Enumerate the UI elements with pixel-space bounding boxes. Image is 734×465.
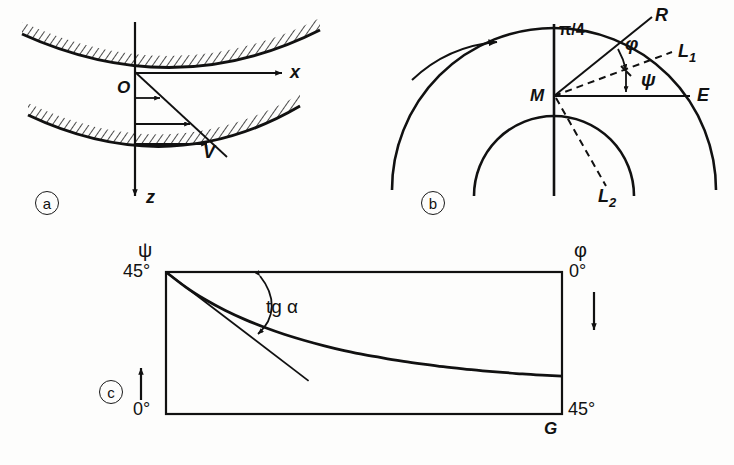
angle-psi-label: ψ xyxy=(641,70,656,89)
upper-wall-hatching xyxy=(22,18,320,68)
psi-axis-symbol: ψ xyxy=(138,240,152,260)
ray-label-R: R xyxy=(655,6,668,24)
tangent-line xyxy=(166,272,309,381)
origin-label-O: O xyxy=(117,79,130,96)
phi-axis-symbol: φ xyxy=(574,240,587,260)
psi-curve xyxy=(166,272,562,376)
psi-axis-bottom-tick: 0° xyxy=(133,400,150,418)
plot-box xyxy=(166,272,562,414)
velocity-label-V: V xyxy=(203,143,215,161)
panel-tag-a: a xyxy=(35,191,59,215)
line-label-L1: L1 xyxy=(678,42,696,65)
panel-tag-b: b xyxy=(421,191,445,215)
panel-c-group xyxy=(141,272,594,414)
line-label-L1-letter: L xyxy=(678,41,689,61)
scientific-figure: O x z V a M R E L1 L2 π/4 φ ψ b ψ 45° 0°… xyxy=(0,0,734,465)
line-label-L2-letter: L xyxy=(598,186,609,206)
psi-axis-top-tick: 45° xyxy=(123,262,150,280)
quarter-pi-label: π/4 xyxy=(559,22,585,38)
panel-a-group xyxy=(22,18,320,196)
line-L2-dashed xyxy=(556,98,606,186)
center-label-M: M xyxy=(530,87,544,104)
x-axis-label-G: G xyxy=(544,420,557,437)
angle-phi-label: φ xyxy=(625,34,638,53)
panel-b-group xyxy=(392,17,716,196)
tangent-annotation-label: tg α xyxy=(266,297,298,316)
line-label-L2: L2 xyxy=(598,187,616,210)
phi-axis-bottom-tick: 45° xyxy=(568,400,595,418)
z-axis-label: z xyxy=(146,188,155,206)
lower-wall-hatching xyxy=(28,94,300,146)
line-label-L2-subscript: 2 xyxy=(609,195,616,210)
x-axis-label: x xyxy=(290,63,300,81)
line-label-L1-subscript: 1 xyxy=(689,50,696,65)
ray-label-E: E xyxy=(697,86,709,104)
phi-axis-top-tick: 0° xyxy=(569,262,586,280)
panel-tag-c: c xyxy=(99,380,123,404)
